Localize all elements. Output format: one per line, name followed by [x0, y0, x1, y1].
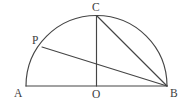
vertex-label-c: C [92, 2, 100, 14]
vertex-label-a: A [14, 88, 22, 100]
vertex-label-b: B [170, 88, 178, 100]
vertex-label-p: P [32, 35, 38, 47]
vertex-label-o: O [92, 89, 100, 101]
geometry-figure: A B C O P [0, 0, 186, 106]
